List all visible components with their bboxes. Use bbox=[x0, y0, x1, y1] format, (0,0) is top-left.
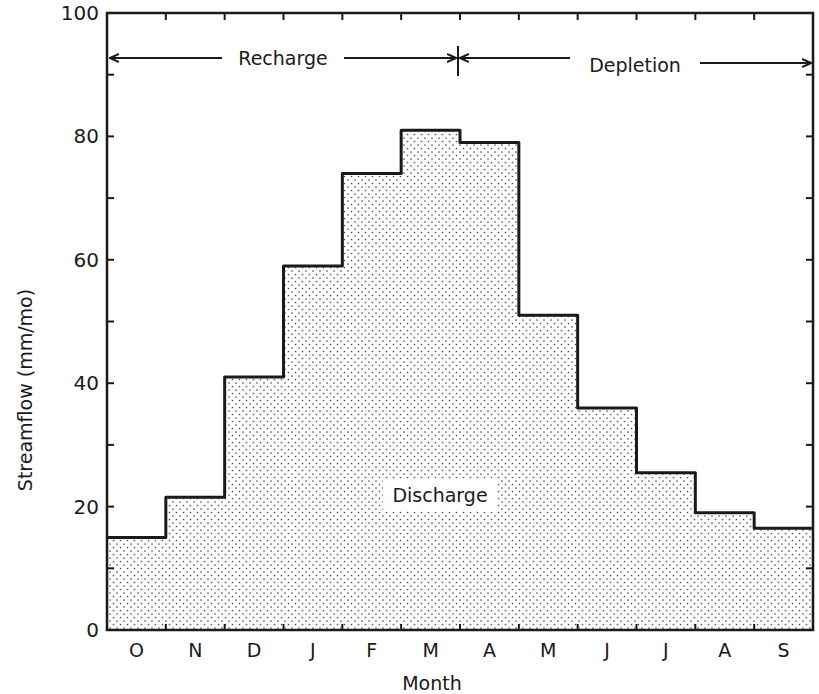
x-axis-title: Month bbox=[402, 672, 462, 694]
bar-A-10 bbox=[695, 513, 754, 630]
y-tick-label: 100 bbox=[61, 1, 99, 25]
streamflow-chart: 020406080100 ONDJFMAMJJAS Recharge Deple… bbox=[0, 0, 819, 694]
x-tick-label: F bbox=[366, 639, 377, 661]
x-tick-label: A bbox=[718, 639, 731, 661]
y-tick-label: 80 bbox=[74, 124, 99, 148]
bar-J-8 bbox=[578, 408, 637, 630]
bar-M-7 bbox=[519, 315, 578, 630]
recharge-label: Recharge bbox=[238, 47, 327, 69]
bar-F-4 bbox=[342, 173, 401, 630]
x-tick-label: J bbox=[603, 639, 610, 661]
bar-J-3 bbox=[284, 266, 343, 630]
bar-J-9 bbox=[637, 473, 696, 630]
recharge-span: Recharge bbox=[110, 47, 456, 69]
x-tick-label: J bbox=[309, 639, 316, 661]
x-tick-label: J bbox=[662, 639, 669, 661]
y-tick-label: 20 bbox=[74, 495, 99, 519]
x-tick-label: N bbox=[188, 639, 202, 661]
bar-S-11 bbox=[754, 528, 813, 630]
bar-D-2 bbox=[225, 377, 284, 630]
x-tick-label: S bbox=[778, 639, 790, 661]
discharge-area bbox=[107, 130, 814, 630]
bar-N-1 bbox=[166, 497, 225, 630]
discharge-label: Discharge bbox=[392, 484, 487, 506]
x-tick-label: D bbox=[247, 639, 262, 661]
y-tick-label: 0 bbox=[86, 618, 99, 642]
y-axis-title: Streamflow (mm/mo) bbox=[14, 289, 36, 491]
x-tick-label: O bbox=[129, 639, 144, 661]
y-tick-label: 40 bbox=[74, 371, 99, 395]
depletion-label: Depletion bbox=[589, 54, 681, 76]
bar-A-6 bbox=[460, 143, 519, 630]
x-tick-label: A bbox=[483, 639, 496, 661]
x-tick-label: M bbox=[422, 639, 438, 661]
x-tick-label: M bbox=[540, 639, 556, 661]
bar-O-0 bbox=[107, 537, 166, 630]
bar-M-5 bbox=[401, 130, 460, 630]
depletion-span: Depletion bbox=[460, 54, 811, 76]
y-tick-label: 60 bbox=[74, 248, 99, 272]
